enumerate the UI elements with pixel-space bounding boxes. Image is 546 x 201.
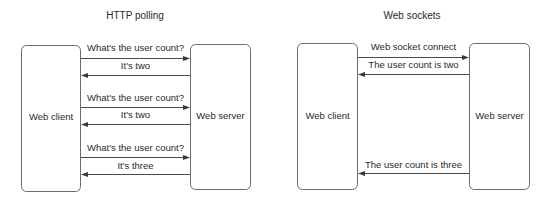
message-label: Web socket connect (371, 41, 457, 52)
message-label: It's two (121, 60, 150, 71)
http-message-1: What's the user count? (81, 42, 190, 61)
http-polling-panel: HTTP polling Web client Web server What'… (22, 10, 251, 192)
ws-server-label: Web server (475, 110, 523, 121)
arrow-right-icon (462, 55, 469, 60)
http-message-6: It's three (81, 160, 190, 177)
http-client-label: Web client (29, 111, 74, 122)
arrow-right-icon (183, 155, 190, 160)
message-label: It's two (121, 109, 150, 120)
arrow-right-icon (183, 105, 190, 110)
http-server-label: Web server (196, 110, 244, 121)
ws-message-2: The user count is two (358, 59, 469, 77)
http-polling-title: HTTP polling (106, 10, 164, 21)
message-label: It's three (117, 160, 153, 171)
message-label: What's the user count? (87, 92, 184, 103)
web-sockets-title: Web sockets (383, 10, 440, 21)
message-label: What's the user count? (87, 142, 184, 153)
http-message-4: It's two (81, 109, 190, 127)
arrow-left-icon (81, 172, 88, 177)
arrow-left-icon (81, 73, 88, 78)
arrow-left-icon (358, 72, 365, 77)
message-label: The user count is two (368, 59, 458, 70)
web-sockets-panel: Web sockets Web client Web server Web so… (298, 10, 530, 190)
ws-message-3: The user count is three (358, 159, 469, 176)
arrow-left-icon (358, 171, 365, 176)
arrow-left-icon (81, 122, 88, 127)
diagram-canvas: HTTP polling Web client Web server What'… (0, 0, 546, 201)
http-message-2: It's two (81, 60, 190, 78)
http-message-5: What's the user count? (81, 142, 190, 160)
ws-client-label: Web client (305, 110, 350, 121)
arrow-right-icon (183, 56, 190, 61)
message-label: What's the user count? (87, 42, 184, 53)
http-message-3: What's the user count? (81, 92, 190, 110)
ws-message-1: Web socket connect (358, 41, 469, 60)
message-label: The user count is three (365, 159, 462, 170)
